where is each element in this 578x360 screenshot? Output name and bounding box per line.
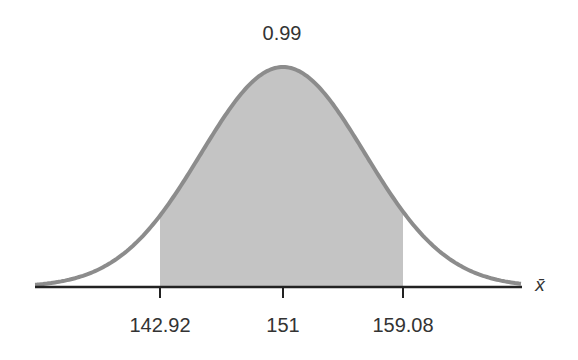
tick-label-mid: 151 (266, 314, 299, 337)
axis-label: x̄ (535, 274, 545, 296)
area-label: 0.99 (263, 22, 302, 45)
tick-label-left: 142.92 (129, 314, 190, 337)
tick-label-right: 159.08 (372, 314, 433, 337)
shaded-area (160, 67, 403, 287)
normal-curve-plot (0, 0, 578, 360)
